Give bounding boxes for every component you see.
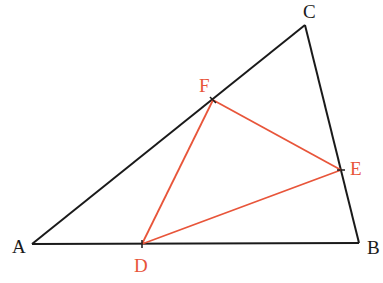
segment-EF xyxy=(213,100,341,170)
segment-CA xyxy=(32,25,305,244)
label-C: C xyxy=(303,1,316,22)
segment-AB xyxy=(32,243,359,244)
label-F: F xyxy=(199,75,210,96)
segment-DE xyxy=(142,170,341,244)
segment-BC xyxy=(305,25,359,243)
geometry-diagram: A B C D E F xyxy=(0,0,383,283)
label-E: E xyxy=(350,158,362,179)
label-A: A xyxy=(12,236,26,257)
label-B: B xyxy=(367,237,380,258)
label-D: D xyxy=(134,255,148,276)
